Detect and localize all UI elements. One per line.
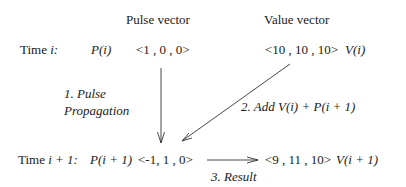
pulse-propagation-arrow-icon [158,68,165,143]
add-arrow-icon [182,64,290,141]
arrows [0,0,406,187]
result-arrow-icon [207,157,258,163]
